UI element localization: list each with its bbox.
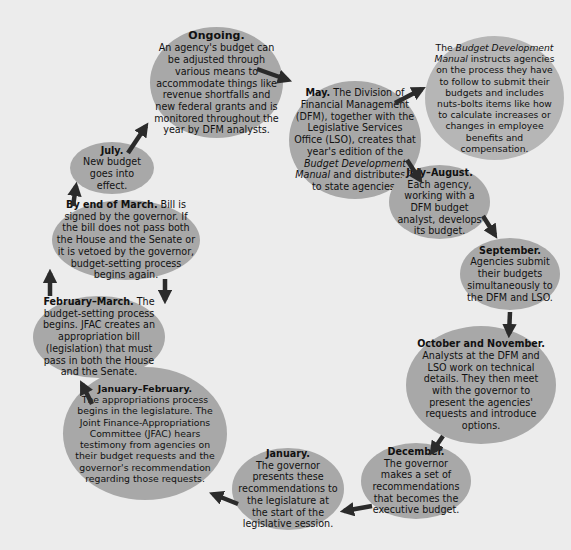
node-july-august-title: July–August. (395, 167, 484, 179)
budget-cycle-diagram: Ongoing. An agency's budget can be adjus… (0, 0, 571, 550)
node-december-title: December. (367, 446, 465, 458)
node-ongoing: Ongoing. An agency's budget can be adjus… (150, 27, 283, 138)
node-july-title: July. (76, 145, 148, 157)
node-july-august: July–August. Each agency, working with a… (389, 165, 490, 239)
node-february-march: February–March. The budget-setting proce… (33, 296, 165, 378)
node-january-text: The governor presents these recommendati… (238, 460, 337, 530)
node-december-text: The governor makes a set of recommendati… (373, 458, 460, 516)
node-january: January. The governor presents these rec… (232, 448, 344, 530)
node-july-text: New budget goes into effect. (83, 156, 141, 190)
node-ongoing-text: An agency's budget can be adjusted throu… (154, 42, 279, 135)
node-ongoing-title: Ongoing. (154, 29, 279, 42)
node-end-of-march: By end of March. Bill is signed by the g… (52, 200, 200, 280)
node-end-of-march-title: By end of March. (66, 199, 157, 210)
node-october-november-title: October and November. (417, 338, 545, 349)
node-september: September. Agencies submit their budgets… (460, 238, 560, 310)
node-manual-note-text-b: instructs agencies on the process they h… (436, 53, 554, 154)
node-february-march-text: The budget-setting process begins. JFAC … (43, 296, 155, 377)
node-end-of-march-text: Bill is signed by the governor. If the b… (57, 199, 195, 280)
node-may-title: May. (306, 87, 331, 98)
node-january-title: January. (238, 448, 338, 460)
node-july: July. New budget goes into effect. (70, 142, 154, 194)
node-october-november: October and November. Analysts at the DF… (406, 326, 556, 444)
node-december: December. The governor makes a set of re… (361, 443, 471, 519)
node-manual-note-text-a: The (436, 42, 456, 53)
node-september-title: September. (466, 245, 554, 257)
node-july-august-text: Each agency, working with a DFM budget a… (397, 179, 481, 237)
node-september-text: Agencies submit their budgets simultaneo… (467, 256, 553, 302)
node-january-february-title: January–February. (71, 383, 219, 394)
node-october-november-text: Analysts at the DFM and LSO work on tech… (422, 350, 539, 431)
node-january-february: January–February. The appropriations pro… (63, 367, 227, 500)
node-manual-note: The Budget Development Manual instructs … (425, 36, 564, 160)
node-january-february-text: The appropriations process begins in the… (75, 394, 214, 484)
node-february-march-title: February–March. (43, 296, 133, 307)
